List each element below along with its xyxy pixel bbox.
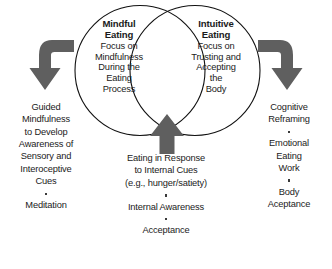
left-column: GuidedMindfulnessto DevelopAwareness ofS… [2, 101, 90, 211]
left-column-item-0: GuidedMindfulnessto DevelopAwareness ofS… [2, 101, 90, 188]
right-column: CognitiveReframing EmotionalEatingWork B… [248, 101, 330, 211]
bottom-column-item-1: Internal Awareness [96, 201, 236, 213]
bullet-separator-icon [165, 218, 168, 221]
bottom-column-item-0: Eating in Responseto Internal Cues(e.g.,… [96, 152, 236, 189]
arrow-up-icon [146, 112, 188, 156]
right-column-item-0: CognitiveReframing [248, 101, 330, 126]
right-column-item-2: BodyAceptance [248, 186, 330, 211]
left-column-item-1: Meditation [2, 199, 90, 211]
bottom-column-item-2: Acceptance [96, 224, 236, 236]
venn-diagram: MindfulEating Focus onMindfulnessDuring … [0, 0, 332, 269]
right-circle-label: IntuitiveEating Focus onTrusting andAcce… [180, 18, 252, 94]
right-column-item-1: EmotionalEatingWork [248, 137, 330, 174]
curved-arrow-down-right-icon [256, 30, 306, 98]
left-circle-heading: MindfulEating [83, 18, 155, 40]
right-circle-body: Focus onTrusting andAcceptingtheBody [180, 41, 252, 94]
left-circle-body: Focus onMindfulnessDuring theEatingProce… [83, 41, 155, 94]
bottom-column: Eating in Responseto Internal Cues(e.g.,… [96, 152, 236, 237]
curved-arrow-down-left-icon [26, 30, 76, 98]
bullet-separator-icon [45, 193, 48, 196]
bullet-separator-icon [165, 194, 168, 197]
left-circle-label: MindfulEating Focus onMindfulnessDuring … [83, 18, 155, 94]
bullet-separator-icon [288, 179, 291, 182]
right-circle-heading: IntuitiveEating [180, 18, 252, 40]
bullet-separator-icon [288, 131, 291, 134]
